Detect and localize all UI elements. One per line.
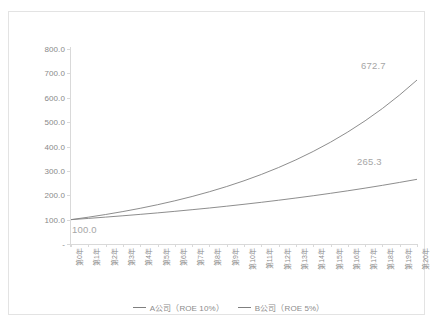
x-axis-tick-label: 第3年 (126, 248, 136, 266)
x-axis-tick-mark (313, 244, 314, 247)
y-axis-tick-mark (67, 122, 70, 123)
legend-line-icon-series-a (133, 307, 146, 308)
x-axis-tick-label: 第9年 (230, 248, 240, 266)
x-axis-tick-mark (296, 244, 297, 247)
legend-label-series-a: A公司（ROE 10%） (150, 302, 224, 313)
x-axis-tick-label: 第14年 (316, 248, 326, 270)
x-axis-tick-mark (123, 244, 124, 247)
x-axis-tick-label: 第20年 (420, 248, 430, 270)
y-axis-tick-mark (67, 147, 70, 148)
x-axis-tick-mark (261, 244, 262, 247)
data-label-series-a-end: 672.7 (361, 60, 386, 71)
series-lines (71, 49, 417, 244)
series-b-line (71, 179, 417, 219)
legend-item-series-b[interactable]: B公司（ROE 5%） (238, 302, 325, 313)
x-axis-tick-label: 第19年 (403, 248, 413, 270)
x-axis-tick-label: 第1年 (91, 248, 101, 266)
y-axis-tick-label: 800.0 (9, 45, 65, 54)
chart-frame: -100.0200.0300.0400.0500.0600.0700.0800.… (8, 11, 425, 315)
y-axis-tick-label: 200.0 (9, 191, 65, 200)
x-axis-tick-label: 第10年 (247, 248, 257, 270)
y-axis-tick-mark (67, 98, 70, 99)
x-axis-tick-mark (71, 244, 72, 247)
x-axis-tick-label: 第12年 (282, 248, 292, 270)
x-axis-labels: 第0年第1年第2年第3年第4年第5年第6年第7年第8年第9年第10年第11年第1… (71, 244, 418, 304)
chart-legend: A公司（ROE 10%） B公司（ROE 5%） (9, 302, 439, 313)
x-axis-tick-mark (106, 244, 107, 247)
x-axis-tick-mark (244, 244, 245, 247)
x-axis-tick-mark (175, 244, 176, 247)
x-axis-tick-mark (140, 244, 141, 247)
y-axis-tick-label: 500.0 (9, 118, 65, 127)
x-axis-tick-label: 第18年 (385, 248, 395, 270)
data-label-series-b-end: 265.3 (357, 156, 382, 167)
x-axis-tick-label: 第16年 (351, 248, 361, 270)
x-axis-tick-mark (400, 244, 401, 247)
legend-item-series-a[interactable]: A公司（ROE 10%） (133, 302, 224, 313)
y-axis-tick-label: 700.0 (9, 69, 65, 78)
x-axis-tick-mark (279, 244, 280, 247)
y-axis-tick-mark (67, 244, 70, 245)
x-axis-tick-mark (382, 244, 383, 247)
x-axis-tick-mark (417, 244, 418, 247)
y-axis-tick-label: 100.0 (9, 215, 65, 224)
x-axis-tick-mark (227, 244, 228, 247)
x-axis-tick-label: 第4年 (143, 248, 153, 266)
x-axis-tick-label: 第15年 (334, 248, 344, 270)
x-axis-tick-label: 第0年 (74, 248, 84, 266)
x-axis-tick-label: 第2年 (109, 248, 119, 266)
y-axis-tick-label: 600.0 (9, 93, 65, 102)
x-axis-tick-label: 第5年 (161, 248, 171, 266)
x-axis-tick-mark (365, 244, 366, 247)
x-axis-tick-mark (348, 244, 349, 247)
x-axis-tick-label: 第6年 (178, 248, 188, 266)
y-axis-tick-mark (67, 73, 70, 74)
legend-label-series-b: B公司（ROE 5%） (255, 302, 325, 313)
x-axis-tick-label: 第13年 (299, 248, 309, 270)
x-axis-tick-label: 第8年 (212, 248, 222, 266)
y-axis-tick-label: 300.0 (9, 166, 65, 175)
x-axis-tick-label: 第17年 (368, 248, 378, 270)
data-label-start: 100.0 (72, 224, 97, 235)
plot-area (71, 49, 417, 244)
x-axis-tick-label: 第7年 (195, 248, 205, 266)
x-axis-tick-mark (158, 244, 159, 247)
y-axis-labels: -100.0200.0300.0400.0500.0600.0700.0800.… (9, 12, 65, 330)
y-axis-tick-mark (67, 49, 70, 50)
legend-line-icon-series-b (238, 307, 251, 308)
y-axis-tick-mark (67, 195, 70, 196)
x-axis-tick-mark (209, 244, 210, 247)
y-axis-tick-label: - (9, 240, 65, 249)
x-axis-tick-label: 第11年 (264, 248, 274, 269)
series-a-line (71, 80, 417, 220)
x-axis-tick-mark (192, 244, 193, 247)
y-axis-tick-mark (67, 220, 70, 221)
y-axis-tick-label: 400.0 (9, 142, 65, 151)
x-axis-tick-mark (88, 244, 89, 247)
x-axis-tick-mark (331, 244, 332, 247)
y-axis-tick-mark (67, 171, 70, 172)
